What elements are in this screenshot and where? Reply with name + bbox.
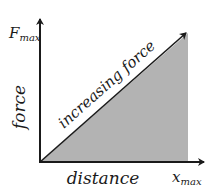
x-max-label: xmax — [172, 168, 202, 187]
x-axis-label: distance — [67, 168, 140, 188]
y-axis-label: force — [9, 85, 29, 131]
y-max-label: Fmax — [8, 24, 41, 43]
force-distance-diagram: Fmax force increasing force distance xma… — [0, 0, 215, 191]
